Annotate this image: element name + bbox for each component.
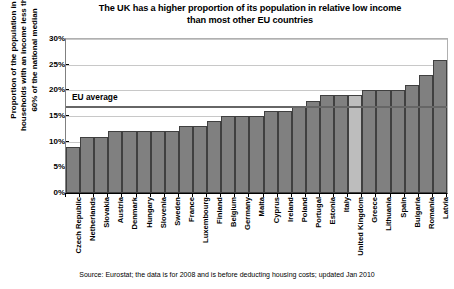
bar-slovakia	[94, 137, 108, 193]
x-label-slot: United Kingdom	[347, 197, 361, 259]
x-label-slot: Finland	[206, 197, 220, 259]
x-label-slot: Austria	[107, 197, 121, 259]
y-axis-tick-labels: 0%5%10%15%20%25%30%	[0, 38, 65, 192]
x-label-slot: Netherlands	[79, 197, 93, 259]
x-label-slot: Germany	[234, 197, 248, 259]
x-label-slot: Sweden	[164, 197, 178, 259]
bar-cyprus	[264, 111, 278, 193]
bar-france	[179, 126, 193, 193]
x-label-slot: Italy	[333, 197, 347, 259]
x-label-slot: Latvia	[432, 197, 446, 259]
bar-sweden	[165, 131, 179, 193]
chart-title-line-1: The UK has a higher proportion of its po…	[99, 3, 402, 13]
y-tick-label: 5%	[35, 162, 65, 171]
bar-hungary	[137, 131, 151, 193]
x-axis-category-labels: Czech RepublicNetherlandsSlovakiaAustria…	[65, 197, 446, 259]
bar-united-kingdom	[348, 95, 362, 193]
x-label-slot: Hungary	[136, 197, 150, 259]
y-tick-label: 10%	[35, 136, 65, 145]
x-label-slot: Czech Republic	[65, 197, 79, 259]
bar-austria	[108, 131, 122, 193]
bar-luxembourg	[193, 126, 207, 193]
chart-title-line-2: than most other EU countries	[187, 15, 313, 25]
x-label-slot: Ireland	[277, 197, 291, 259]
x-label-slot: Estonia	[319, 197, 333, 259]
x-label-slot: Bulgaria	[404, 197, 418, 259]
x-label-slot: Slovenia	[150, 197, 164, 259]
x-label-slot: Spain	[390, 197, 404, 259]
bar-bulgaria	[405, 85, 419, 193]
bar-denmark	[122, 131, 136, 193]
y-tick-label: 15%	[35, 111, 65, 120]
x-label-slot: Denmark	[121, 197, 135, 259]
bar-italy	[334, 95, 348, 193]
eu-average-label: EU average	[72, 92, 118, 102]
source-note: Source: Eurostat; the data is for 2008 a…	[0, 270, 454, 279]
x-label-slot: Romania	[418, 197, 432, 259]
bar-germany	[235, 116, 249, 193]
bar-slovenia	[151, 131, 165, 193]
x-label-slot: Malta	[248, 197, 262, 259]
plot-area: EU average	[65, 38, 448, 194]
bar-portugal	[306, 101, 320, 193]
y-tick-label: 20%	[35, 85, 65, 94]
x-label-slot: Slovakia	[93, 197, 107, 259]
bar-romania	[419, 75, 433, 193]
x-label-slot: Lithuania	[375, 197, 389, 259]
bar-malta	[249, 116, 263, 193]
x-label-slot: Cyprus	[263, 197, 277, 259]
bars-layer	[66, 39, 447, 193]
x-label-slot: Belgium	[220, 197, 234, 259]
chart-title: The UK has a higher proportion of its po…	[52, 3, 448, 26]
bar-poland	[292, 106, 306, 193]
x-label-slot: Poland	[291, 197, 305, 259]
bar-czech-republic	[66, 147, 80, 193]
bar-ireland	[278, 111, 292, 193]
x-label-slot: Luxembourg	[192, 197, 206, 259]
bar-latvia	[433, 60, 447, 193]
x-label-slot: Greece	[361, 197, 375, 259]
y-tick-label: 25%	[35, 59, 65, 68]
x-label-slot: France	[178, 197, 192, 259]
x-label-slot: Portugal	[305, 197, 319, 259]
bar-netherlands	[80, 137, 94, 193]
bar-estonia	[320, 95, 334, 193]
y-tick-label: 0%	[35, 188, 65, 197]
y-tick-label: 30%	[35, 34, 65, 43]
x-axis-label: Latvia	[442, 197, 450, 219]
chart-figure: The UK has a higher proportion of its po…	[0, 0, 454, 289]
bar-finland	[207, 121, 221, 193]
eu-average-line	[66, 106, 447, 108]
bar-belgium	[221, 116, 235, 193]
